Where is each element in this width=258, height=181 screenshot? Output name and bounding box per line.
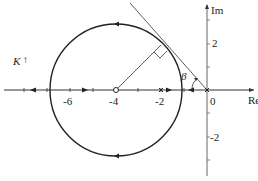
tangent-line: [130, 3, 207, 90]
y-tick-2: 2: [212, 38, 218, 49]
diagram-canvas: [0, 0, 258, 181]
gain-label: K: [13, 56, 20, 67]
x-tick-minus6: -6: [63, 96, 72, 107]
axis-arrow-right-2: [166, 88, 172, 93]
circle-arrow-top: [114, 22, 119, 27]
x-tick-0: 0: [210, 96, 216, 107]
zero-marker: [114, 88, 119, 93]
x-tick-minus4: -4: [109, 96, 118, 107]
axis-arrow-left-2: [188, 88, 194, 93]
right-angle-marker: [154, 51, 167, 58]
x-tick-minus2: -2: [155, 96, 164, 107]
real-axis: [4, 88, 254, 92]
angle-label: β: [181, 71, 186, 82]
gain-arrow: ↑: [23, 55, 28, 65]
circle-arrow-bottom: [114, 154, 119, 159]
x-axis-label: Re: [248, 95, 258, 106]
axis-arrow-left-1: [30, 88, 36, 93]
axis-arrow-right-1: [82, 88, 88, 93]
y-axis-label: Im: [211, 5, 223, 16]
y-tick-minus2: -2: [210, 132, 219, 143]
